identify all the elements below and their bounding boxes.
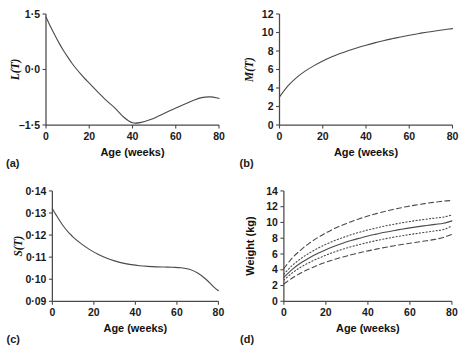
panel-b-xaxis-title: Age (weeks) bbox=[334, 146, 399, 158]
panel-c-xtick-label: 40 bbox=[130, 307, 142, 318]
panel-b-ytick-label: 6 bbox=[268, 63, 274, 75]
panel-c-letter: (c) bbox=[7, 333, 21, 345]
panel-a-xtick-label: 80 bbox=[213, 130, 225, 142]
panel-d-ytick-label: 2 bbox=[272, 280, 278, 291]
panel-c-xtick-label: 20 bbox=[88, 307, 100, 318]
panel-a-ytick-label: 0·0 bbox=[25, 63, 40, 75]
panel-b-ytick-label: 4 bbox=[268, 82, 274, 94]
panel-a-xtick-label: 40 bbox=[127, 130, 139, 142]
panel-a-xtick-label: 0 bbox=[43, 130, 49, 142]
panel-b-series-0 bbox=[280, 29, 453, 97]
panel-c-axis-lines bbox=[52, 191, 218, 301]
panel-b-yaxis-title: M(T) bbox=[243, 57, 256, 83]
panel-b: 024681012020406080Age (weeks)M(T)(b) bbox=[233, 0, 467, 177]
panel-a-series-0 bbox=[46, 17, 219, 123]
panel-c-xaxis-title: Age (weeks) bbox=[104, 322, 168, 334]
panel-d-letter: (d) bbox=[240, 333, 254, 345]
panel-d-xtick-label: 0 bbox=[281, 307, 287, 318]
panel-d-ytick-label: 0 bbox=[272, 296, 278, 307]
panel-d-series-4 bbox=[284, 234, 452, 284]
panel-a-letter: (a) bbox=[6, 157, 20, 169]
panel-b-letter: (b) bbox=[240, 157, 254, 169]
panel-b-xtick-label: 0 bbox=[277, 130, 283, 142]
panel-c-ytick-label: 0·11 bbox=[26, 252, 47, 263]
panel-b-ytick-label: 0 bbox=[268, 119, 274, 131]
panel-b-plot: 024681012020406080Age (weeks)M(T)(b) bbox=[233, 0, 467, 177]
panel-a-xtick-label: 60 bbox=[170, 130, 182, 142]
panel-d-xtick-label: 20 bbox=[320, 307, 332, 318]
panel-d-ytick-label: 10 bbox=[266, 217, 278, 228]
figure-container: –1·50·01·5020406080Age (weeks)L(T)(a) 02… bbox=[0, 0, 467, 353]
panel-a-yaxis-title: L(T) bbox=[9, 58, 22, 81]
panel-b-ytick-label: 2 bbox=[268, 100, 274, 112]
panel-c-plot: 0·090·100·110·120·130·14020406080Age (we… bbox=[0, 177, 233, 353]
panel-d: 02468101214020406080Age (weeks)Weight (k… bbox=[233, 177, 467, 353]
panel-d-ytick-label: 12 bbox=[266, 201, 278, 212]
panel-a-ytick-label: –1·5 bbox=[19, 119, 40, 131]
panel-d-ytick-label: 6 bbox=[272, 249, 278, 260]
panel-d-xtick-label: 40 bbox=[362, 307, 374, 318]
panel-d-yaxis-title: Weight (kg) bbox=[244, 216, 256, 276]
panel-d-ytick-label: 14 bbox=[266, 186, 278, 197]
panel-b-xtick-label: 20 bbox=[317, 130, 329, 142]
panel-b-xtick-label: 60 bbox=[403, 130, 415, 142]
panel-d-xaxis-title: Age (weeks) bbox=[336, 322, 400, 334]
panel-d-axis-lines bbox=[284, 191, 452, 301]
panel-b-xtick-label: 80 bbox=[447, 130, 459, 142]
panel-c-ytick-label: 0·10 bbox=[26, 274, 47, 285]
panel-a-xtick-label: 20 bbox=[83, 130, 95, 142]
panel-a: –1·50·01·5020406080Age (weeks)L(T)(a) bbox=[0, 0, 233, 177]
panel-c-ytick-label: 0·12 bbox=[26, 230, 47, 241]
panel-d-plot: 02468101214020406080Age (weeks)Weight (k… bbox=[233, 177, 467, 353]
panel-d-xtick-label: 60 bbox=[404, 307, 416, 318]
panel-b-ytick-label: 10 bbox=[262, 26, 274, 38]
panel-c-xtick-label: 60 bbox=[171, 307, 183, 318]
panel-b-ytick-label: 8 bbox=[268, 45, 274, 57]
panel-c-yaxis-title: S(T) bbox=[12, 235, 25, 256]
panel-c-xtick-label: 80 bbox=[213, 307, 225, 318]
panel-c-xtick-label: 0 bbox=[49, 307, 55, 318]
panel-b-ytick-label: 12 bbox=[262, 8, 274, 20]
panel-c: 0·090·100·110·120·130·14020406080Age (we… bbox=[0, 177, 233, 353]
panel-b-axis-lines bbox=[280, 14, 453, 125]
panel-b-xtick-label: 40 bbox=[360, 130, 372, 142]
panel-a-xaxis-title: Age (weeks) bbox=[100, 146, 165, 158]
panel-c-ytick-label: 0·09 bbox=[26, 296, 47, 307]
panel-d-series-1 bbox=[284, 215, 452, 274]
panel-a-ytick-label: 1·5 bbox=[25, 8, 40, 20]
panel-d-ytick-label: 8 bbox=[272, 233, 278, 244]
panel-d-ytick-label: 4 bbox=[272, 264, 278, 275]
panel-c-ytick-label: 0·14 bbox=[26, 186, 47, 197]
panel-d-series-3 bbox=[284, 226, 452, 280]
panel-a-plot: –1·50·01·5020406080Age (weeks)L(T)(a) bbox=[0, 0, 233, 177]
panel-c-ytick-label: 0·13 bbox=[26, 208, 47, 219]
panel-d-xtick-label: 80 bbox=[446, 307, 458, 318]
panel-c-series-0 bbox=[52, 209, 218, 291]
panel-a-axis-lines bbox=[46, 14, 219, 125]
